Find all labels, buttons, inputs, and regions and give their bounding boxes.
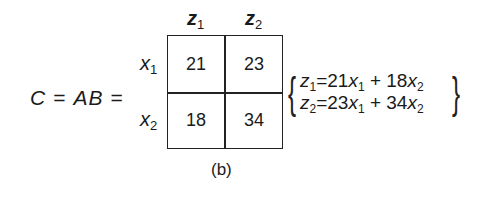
system-equation-2: z2=23x1 + 34x2 (300, 92, 424, 116)
matrix-equation-lhs: C=AB= (30, 86, 131, 110)
cell-x1-z1: 21 (168, 54, 224, 75)
column-header-z2: z2 (245, 7, 262, 32)
var-c: C (30, 86, 46, 109)
right-brace: } (452, 68, 460, 118)
row-header-x2: x2 (140, 108, 157, 133)
figure-caption: (b) (211, 160, 232, 180)
grid-horizontal-divider (167, 92, 283, 94)
cell-x2-z1: 18 (168, 110, 224, 131)
system-equation-1: z1=21x1 + 18x2 (300, 70, 424, 94)
equals-sign: = (53, 86, 66, 109)
equals-sign: = (110, 86, 123, 109)
column-header-z1: z1 (187, 7, 204, 32)
row-header-x1: x1 (140, 52, 157, 77)
product-ab: AB (73, 86, 103, 109)
cell-x2-z2: 34 (226, 110, 282, 131)
cell-x1-z2: 23 (226, 54, 282, 75)
left-brace: { (288, 68, 296, 118)
